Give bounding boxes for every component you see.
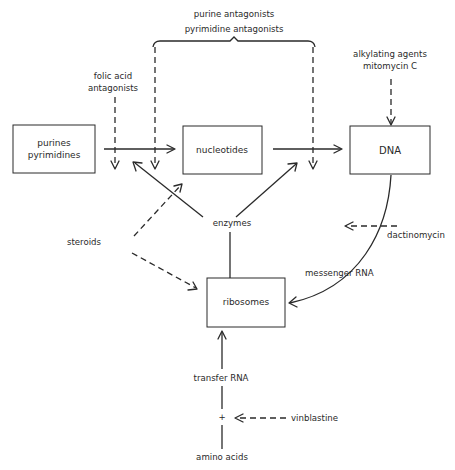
dna-label: DNA (379, 145, 401, 156)
drug-action-diagram: purine antagonists pyrimidine antagonist… (0, 0, 455, 470)
steroids-to-nucleotides-dashed (134, 185, 181, 236)
node-nucleotides: nucleotides (183, 126, 262, 174)
alkylating-agents-group: alkylating agents mitomycin C (353, 49, 427, 125)
messenger-rna-label: messenger RNA (305, 268, 374, 278)
transfer-rna-label: transfer RNA (194, 373, 249, 383)
folic-acid-label-line1: folic acid (94, 71, 132, 81)
folic-acid-label-line2: antagonists (88, 83, 139, 93)
steroids-label: steroids (67, 237, 102, 247)
pyrimidine-antagonists-label: pyrimidine antagonists (185, 24, 284, 34)
vinblastine-label: vinblastine (291, 413, 338, 423)
purine-antagonists-label: purine antagonists (194, 9, 275, 19)
ribosomes-label: ribosomes (223, 297, 270, 307)
node-purines-pyrimidines: purines pyrimidines (13, 125, 95, 173)
dactinomycin-label: dactinomycin (387, 230, 445, 240)
arrow-dna-to-ribosomes-mrna (290, 175, 391, 303)
purines-label: purines (37, 138, 71, 148)
node-ribosomes: ribosomes (207, 278, 285, 327)
alkylating-agents-label: alkylating agents (353, 49, 427, 59)
plus-label: + (218, 412, 225, 422)
pyrimidines-label: pyrimidines (28, 150, 81, 160)
bracket (153, 37, 315, 47)
mitomycin-c-label: mitomycin C (363, 61, 417, 71)
amino-acids-label: amino acids (196, 452, 248, 462)
steroids-to-ribosomes-dashed (132, 253, 196, 288)
node-dna: DNA (350, 126, 430, 174)
enzymes-label: enzymes (213, 218, 252, 228)
nucleotides-label: nucleotides (196, 145, 248, 155)
arrowhead-up-left (133, 162, 142, 171)
arrowhead-down-right (188, 282, 197, 290)
